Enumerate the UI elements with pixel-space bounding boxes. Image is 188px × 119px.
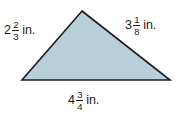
- right-denominator: 8: [133, 27, 140, 37]
- right-numerator: 1: [133, 15, 140, 25]
- bottom-unit: in.: [86, 94, 99, 107]
- left-denominator: 3: [12, 32, 19, 42]
- bottom-fraction: 3 4: [76, 90, 83, 111]
- left-whole-number: 2: [4, 24, 11, 37]
- figure-canvas: 2 2 3 in. 3 1 8 in. 4 3 4 in.: [0, 0, 188, 119]
- base-side-length-label: 4 3 4 in.: [68, 90, 99, 111]
- bottom-denominator: 4: [76, 102, 83, 112]
- right-unit: in.: [143, 19, 156, 32]
- right-side-length-label: 3 1 8 in.: [125, 15, 156, 36]
- bottom-whole-number: 4: [68, 94, 75, 107]
- left-unit: in.: [22, 24, 35, 37]
- left-numerator: 2: [12, 20, 19, 30]
- bottom-numerator: 3: [76, 90, 83, 100]
- right-whole-number: 3: [125, 19, 132, 32]
- left-side-length-label: 2 2 3 in.: [4, 20, 35, 41]
- left-fraction: 2 3: [12, 20, 19, 41]
- right-fraction: 1 8: [133, 15, 140, 36]
